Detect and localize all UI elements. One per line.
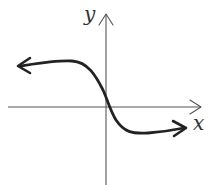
y-axis-label: y [84,4,95,24]
x-axis-label: x [193,113,204,133]
coordinate-graph: y x [0,0,215,185]
function-curve [20,61,184,133]
graph-canvas [0,0,215,185]
